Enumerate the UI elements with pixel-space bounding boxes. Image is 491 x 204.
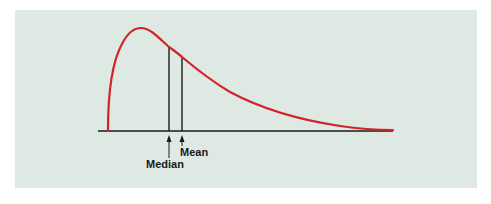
distribution-curve: [108, 28, 393, 131]
skewed-distribution-diagram: [0, 0, 491, 204]
mean-arrow-icon: [180, 135, 185, 142]
median-arrow-icon: [167, 135, 172, 142]
median-label: Median: [146, 158, 184, 170]
mean-label: Mean: [180, 146, 208, 158]
